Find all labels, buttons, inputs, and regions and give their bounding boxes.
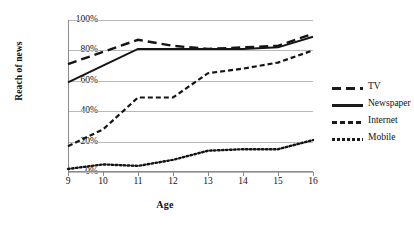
legend-swatch-tv xyxy=(332,87,363,90)
x-axis-tick xyxy=(68,172,69,176)
x-axis-tick-label: 13 xyxy=(193,176,223,186)
x-axis-tick xyxy=(173,172,174,176)
legend-item-mobile[interactable]: Mobile xyxy=(332,131,412,148)
x-axis-tick-label: 14 xyxy=(228,176,258,186)
x-axis-tick xyxy=(313,172,314,176)
x-axis-tick xyxy=(243,172,244,176)
x-axis-tick-label: 11 xyxy=(123,176,153,186)
plot-area xyxy=(68,20,313,172)
x-axis-tick xyxy=(103,172,104,176)
x-axis-tick-label: 16 xyxy=(298,176,328,186)
reach-of-news-line-chart: Reach of news Age 0%20%40%60%80%100% 910… xyxy=(0,0,414,226)
y-axis-title: Reach of news xyxy=(14,23,28,119)
gridline xyxy=(68,172,313,173)
legend-swatch-newspaper xyxy=(332,104,363,107)
x-axis-tick xyxy=(208,172,209,176)
legend-item-newspaper[interactable]: Newspaper xyxy=(332,97,412,114)
x-axis-tick-label: 15 xyxy=(263,176,293,186)
legend-swatch-mobile xyxy=(332,138,363,141)
legend-label: Internet xyxy=(368,115,398,125)
series-lines xyxy=(68,20,313,172)
legend-item-tv[interactable]: TV xyxy=(332,80,412,97)
series-line-mobile xyxy=(68,140,313,169)
legend-item-internet[interactable]: Internet xyxy=(332,114,412,131)
legend-label: Newspaper xyxy=(368,98,411,108)
legend-swatch-internet xyxy=(332,121,363,124)
chart-legend: TVNewspaperInternetMobile xyxy=(332,80,412,148)
legend-label: Mobile xyxy=(368,132,395,142)
x-axis-tick xyxy=(138,172,139,176)
x-axis-title: Age xyxy=(0,199,330,210)
x-axis-tick-label: 10 xyxy=(88,176,118,186)
x-axis-tick xyxy=(278,172,279,176)
series-line-newspaper xyxy=(68,37,313,83)
x-axis-tick-label: 9 xyxy=(53,176,83,186)
legend-label: TV xyxy=(368,81,381,91)
x-axis-tick-label: 12 xyxy=(158,176,188,186)
